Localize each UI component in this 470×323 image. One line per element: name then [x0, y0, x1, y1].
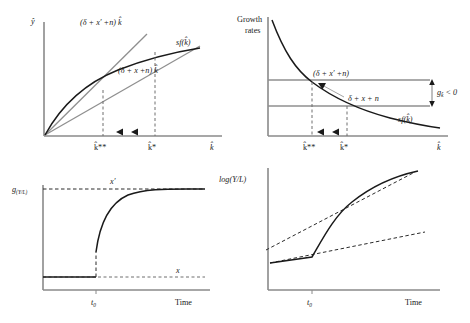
production-curve-label-top-left: sf(k̂) [176, 36, 191, 47]
convergence-arrow-1-top-right [317, 129, 324, 136]
sf-over-k-curve-top-right [272, 20, 440, 128]
convergence-arrow-2-top-left [131, 129, 138, 136]
x-axis-label-top-right: k̂ [437, 141, 441, 152]
panel-bottom-left: g(Y/L) x′ x t0 Time [12, 177, 210, 308]
gk-annotation: gk̂ < 0 [437, 88, 457, 98]
panel-top-right: Growth rates (δ + x′ +n) δ + x + n sf(k̂… [237, 15, 457, 152]
gk-annotation-tail: < 0 [444, 88, 458, 97]
panel-top-left: ŷ (δ + x′ +n) k̂ sf(k̂) (δ + x +n) k̂ k̂… [30, 16, 222, 152]
old-breakeven-line-top-left [45, 46, 200, 135]
t0-tick-label-bottom-right: t0 [307, 298, 312, 308]
actual-path-bottom-right [270, 171, 418, 263]
y-axis-label-sub-bottom-left: (Y/L) [16, 189, 27, 196]
k-double-star-tick-top-right: k̂** [303, 141, 315, 152]
x-axis-label-bottom-left: Time [175, 298, 192, 307]
y-axis-label-bottom-left: g(Y/L) [12, 185, 27, 196]
k-star-tick-top-left: k̂* [148, 141, 156, 152]
new-breakeven-label-top-left: (δ + x′ +n) k̂ [80, 16, 122, 27]
x-level-label: x [175, 266, 180, 275]
old-breakeven-level-label: δ + x + n [348, 94, 379, 103]
panel-bottom-right: log(Y/L) t0 Time [219, 168, 440, 308]
x-prime-level-label: x′ [109, 177, 116, 186]
sf-over-k-label-top-right: sf(k̂) [398, 113, 413, 124]
convergence-arrow-1-top-left [116, 129, 123, 136]
growth-rate-path-transition [96, 189, 205, 252]
new-trend-line-bottom-right [266, 172, 415, 250]
gk-arrow-down [429, 101, 435, 107]
new-breakeven-level-label: (δ + x′ +n) [313, 69, 349, 78]
t0-sub-bottom-right: 0 [309, 302, 312, 308]
x-axis-label-bottom-right: Time [405, 298, 422, 307]
gk-arrow-up [429, 79, 435, 85]
k-double-star-tick-top-left: k̂** [94, 141, 106, 152]
solow-model-figure: ŷ (δ + x′ +n) k̂ sf(k̂) (δ + x +n) k̂ k̂… [0, 0, 470, 323]
y-axis-label-line2-top-right: rates [245, 26, 260, 35]
old-trend-line-bottom-right [270, 232, 425, 263]
convergence-arrow-2-top-right [332, 129, 339, 136]
t0-tick-label-bottom-left: t0 [91, 298, 96, 308]
t0-sub-bottom-left: 0 [93, 302, 96, 308]
y-axis-label-bottom-right: log(Y/L) [219, 175, 247, 184]
k-star-tick-top-right: k̂* [340, 141, 348, 152]
y-axis-label-line1-top-right: Growth [237, 15, 262, 24]
y-axis-label-top-left: ŷ [30, 17, 35, 26]
old-breakeven-label-top-left: (δ + x +n) k̂ [118, 64, 158, 75]
x-axis-label-top-left: k̂ [210, 141, 214, 152]
